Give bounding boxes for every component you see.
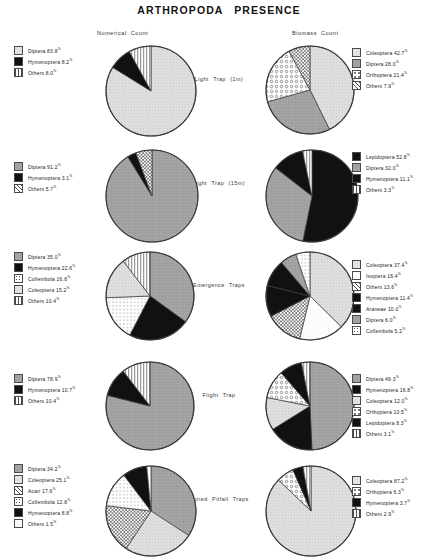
figure-title: ARTHROPODA PRESENCE xyxy=(0,4,438,16)
legend-item: Diptera 6.0% xyxy=(352,315,413,324)
legend-swatch-icon xyxy=(352,163,361,172)
legend-item: Diptera 34.2% xyxy=(14,464,73,473)
legend-label: Coleoptera 25.1% xyxy=(28,477,70,483)
legend-label: Diptera 28.0% xyxy=(366,61,399,67)
legend-item: Others 5.7% xyxy=(14,184,73,193)
legend-swatch-icon xyxy=(352,487,361,496)
legend-swatch-icon xyxy=(14,274,23,283)
chart-row: Light Trap (15m)Diptera 91.2%Hymenoptera… xyxy=(0,140,438,250)
column-header-biomass-count: Biomass Count xyxy=(292,30,338,36)
column-header-numerical-count: Numerical Count xyxy=(97,30,148,36)
pie-slice xyxy=(310,362,354,450)
legend-swatch-icon xyxy=(14,385,23,394)
legend-item: Orthoptera 10.5% xyxy=(352,407,414,416)
legend-label: Diptera 49.3% xyxy=(366,376,399,382)
legend-right: Coleoptera 87.2%Orthoptera 6.3%Hymenopte… xyxy=(352,476,411,520)
legend-swatch-icon xyxy=(14,475,23,484)
legend-label: Orthoptera 10.5% xyxy=(366,409,407,415)
legend-label: Others 1.5% xyxy=(28,521,57,527)
legend-swatch-icon xyxy=(352,326,361,335)
pie-chart xyxy=(264,464,358,558)
legend-label: Isoptera 16.4% xyxy=(366,273,401,279)
legend-swatch-icon xyxy=(352,260,361,269)
pie-chart xyxy=(104,148,200,244)
legend-item: Others 10.4% xyxy=(14,296,76,305)
legend-item: Hymenoptera 11.4% xyxy=(352,293,413,302)
legend-item: Orthoptera 6.3% xyxy=(352,487,411,496)
chart-row: Emergence TrapsDiptera 35.0%Hymenoptera … xyxy=(0,240,438,350)
legend-item: Isoptera 16.4% xyxy=(352,271,413,280)
legend-label: Others 10.4% xyxy=(28,298,60,304)
legend-item: Diptera 28.0% xyxy=(352,59,408,68)
legend-item: Others 2.9% xyxy=(352,509,411,518)
legend-left: Diptera 83.8%Hymenoptera 8.2%Others 8.0% xyxy=(14,46,73,79)
legend-swatch-icon xyxy=(352,476,361,485)
legend-swatch-icon xyxy=(14,162,23,171)
legend-swatch-icon xyxy=(14,508,23,517)
legend-right: Diptera 49.3%Hymenoptera 16.8%Coleoptera… xyxy=(352,374,414,440)
legend-label: Collembola 5.2% xyxy=(366,328,405,334)
pie-chart-left xyxy=(104,250,196,342)
pie-chart xyxy=(264,360,356,452)
legend-label: Collembola 16.8% xyxy=(28,276,70,282)
legend-label: Diptera 78.9% xyxy=(28,376,61,382)
legend-swatch-icon xyxy=(14,173,23,182)
pie-chart xyxy=(264,44,356,136)
legend-swatch-icon xyxy=(352,59,361,68)
legend-item: Hymenoptera 8.8% xyxy=(14,508,73,517)
pie-chart-left xyxy=(104,464,198,558)
legend-swatch-icon xyxy=(14,252,23,261)
pie-chart xyxy=(104,44,198,138)
legend-swatch-icon xyxy=(14,519,23,528)
legend-label: Lepidoptera 8.3% xyxy=(366,420,407,426)
legend-swatch-icon xyxy=(352,498,361,507)
legend-swatch-icon xyxy=(352,48,361,57)
legend-swatch-icon xyxy=(352,293,361,302)
legend-item: Diptera 83.8% xyxy=(14,46,73,55)
legend-swatch-icon xyxy=(14,46,23,55)
legend-swatch-icon xyxy=(14,497,23,506)
legend-label: Acari 17.6% xyxy=(28,488,56,494)
legend-label: Others 3.3% xyxy=(366,187,395,193)
legend-swatch-icon xyxy=(14,396,23,405)
legend-swatch-icon xyxy=(352,509,361,518)
legend-label: Hymenoptera 16.8% xyxy=(366,387,414,393)
legend-item: Collembola 12.8% xyxy=(14,497,73,506)
pie-chart xyxy=(264,148,360,244)
legend-item: Others 8.0% xyxy=(14,68,73,77)
legend-item: Collembola 5.2% xyxy=(352,326,413,335)
legend-label: Hymenoptera 8.8% xyxy=(28,510,73,516)
legend-swatch-icon xyxy=(352,374,361,383)
legend-item: Coleoptera 42.7% xyxy=(352,48,408,57)
pie-chart-left xyxy=(104,148,200,244)
legend-swatch-icon xyxy=(352,81,361,90)
legend-label: Others 5.7% xyxy=(28,186,57,192)
pie-chart xyxy=(104,464,198,558)
legend-item: Araneae 10.0% xyxy=(352,304,413,313)
legend-item: Coleoptera 25.1% xyxy=(14,475,73,484)
legend-label: Hymenoptera 10.7% xyxy=(28,387,76,393)
legend-label: Others 13.6% xyxy=(366,284,398,290)
legend-item: Lepidoptera 52.8% xyxy=(352,152,413,161)
legend-label: Coleoptera 12.0% xyxy=(366,398,408,404)
legend-label: Diptera 91.2% xyxy=(28,164,61,170)
legend-item: Hymenoptera 8.2% xyxy=(14,57,73,66)
legend-swatch-icon xyxy=(352,174,361,183)
pie-chart-left xyxy=(104,44,198,138)
legend-swatch-icon xyxy=(14,57,23,66)
legend-item: Others 3.3% xyxy=(352,185,413,194)
legend-item: Others 1.5% xyxy=(14,519,73,528)
legend-label: Hymenoptera 3.1% xyxy=(28,175,73,181)
legend-item: Coleoptera 37.4% xyxy=(352,260,413,269)
legend-label: Coleoptera 42.7% xyxy=(366,50,408,56)
legend-swatch-icon xyxy=(352,385,361,394)
legend-item: Hymenoptera 16.8% xyxy=(352,385,414,394)
legend-label: Others 8.0% xyxy=(28,70,57,76)
legend-item: Others 10.4% xyxy=(14,396,76,405)
legend-right: Coleoptera 42.7%Diptera 28.0%Orthoptera … xyxy=(352,48,408,92)
legend-swatch-icon xyxy=(352,418,361,427)
legend-swatch-icon xyxy=(14,68,23,77)
legend-label: Others 7.9% xyxy=(366,83,395,89)
chart-row: Buried Pitfall TrapsDiptera 34.2%Coleopt… xyxy=(0,452,438,559)
legend-item: Hymenoptera 10.7% xyxy=(14,385,76,394)
